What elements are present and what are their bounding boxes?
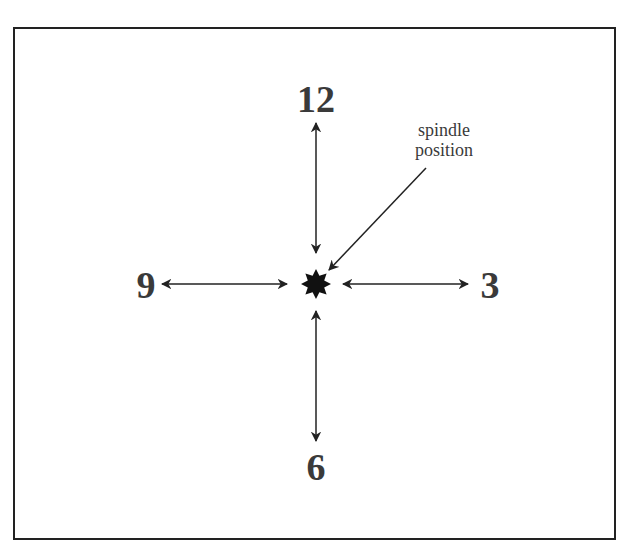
annotation-line-2: position <box>394 140 494 160</box>
label-3: 3 <box>470 266 510 304</box>
spindle-star-icon <box>301 269 331 299</box>
label-6: 6 <box>296 448 336 486</box>
arrow-pointer <box>329 168 426 270</box>
label-12: 12 <box>286 80 346 118</box>
label-9: 9 <box>126 266 166 304</box>
spindle-position-annotation: spindle position <box>394 120 494 160</box>
annotation-line-1: spindle <box>394 120 494 140</box>
